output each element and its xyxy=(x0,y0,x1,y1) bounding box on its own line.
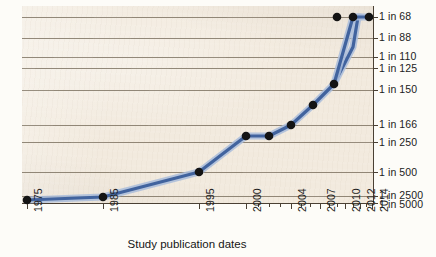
x-tick-2007 xyxy=(320,204,321,209)
x-axis-title: Study publication dates xyxy=(0,238,374,250)
y-tick xyxy=(374,68,378,69)
x-axis-label: 2000 xyxy=(251,188,263,212)
x-tick-2000 xyxy=(246,204,247,209)
data-point xyxy=(265,132,274,141)
data-point xyxy=(23,196,32,205)
x-axis-label: 1975 xyxy=(32,188,44,212)
y-axis-label: 1 in 166 xyxy=(379,119,417,130)
x-axis-label: 1995 xyxy=(204,188,216,212)
x-tick-2010 xyxy=(345,204,346,209)
data-point xyxy=(195,168,204,177)
y-axis-label: 1 in 500 xyxy=(379,167,417,178)
y-axis-label: 1 in 110 xyxy=(379,51,416,62)
x-tick-1995 xyxy=(199,204,200,209)
x-axis-label: 2007 xyxy=(325,188,337,212)
x-tick-1975 xyxy=(27,204,28,209)
data-point xyxy=(349,13,358,22)
data-point xyxy=(333,13,342,22)
chart-figure: 1975 1985 1995 2000 2004 2007 2010 2012 … xyxy=(0,0,436,257)
y-tick xyxy=(374,90,378,91)
y-tick xyxy=(374,17,378,18)
y-axis-label: 1 in 88 xyxy=(379,32,411,43)
data-point xyxy=(99,193,108,202)
x-axis-label: 2004 xyxy=(296,188,308,212)
series-markers xyxy=(23,13,374,205)
y-tick xyxy=(374,38,378,39)
x-axis-label: 1985 xyxy=(108,188,120,212)
x-tick-1985 xyxy=(103,204,104,209)
data-point xyxy=(287,121,296,130)
y-axis-label: 1 in 250 xyxy=(379,137,417,148)
y-tick xyxy=(374,125,378,126)
y-axis-label: 1 in 5000 xyxy=(379,199,423,210)
y-tick xyxy=(374,142,378,143)
data-point xyxy=(330,80,339,89)
x-tick-minor xyxy=(269,204,270,207)
x-tick-minor xyxy=(337,204,338,207)
data-point xyxy=(309,101,318,110)
x-tick-2004 xyxy=(291,204,292,209)
y-axis-label: 1 in 125 xyxy=(379,63,417,74)
series-line xyxy=(27,17,360,200)
x-tick-minor xyxy=(280,204,281,207)
y-tick xyxy=(374,196,378,197)
x-axis-label: 2010 xyxy=(350,188,362,212)
x-tick-minor xyxy=(310,204,311,207)
y-tick xyxy=(374,203,378,204)
data-point xyxy=(242,132,251,141)
series-layer xyxy=(0,0,436,257)
y-tick xyxy=(374,172,378,173)
y-axis-label: 1 in 150 xyxy=(379,84,417,95)
data-point xyxy=(365,13,374,22)
x-axis-label: 2012 xyxy=(365,188,377,212)
y-tick xyxy=(374,57,378,58)
y-axis-label: 1 in 68 xyxy=(379,11,411,22)
